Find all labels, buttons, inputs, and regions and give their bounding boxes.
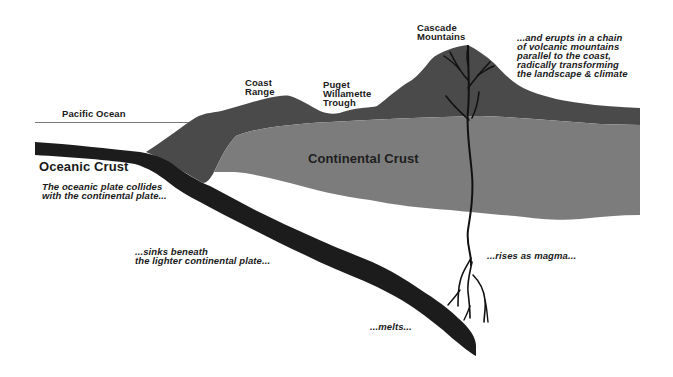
label-continental-crust: Continental Crust <box>308 152 419 165</box>
annotation-collides: The oceanic plate collides with the cont… <box>42 182 167 200</box>
label-oceanic-crust: Oceanic Crust <box>39 160 128 173</box>
label-pacific-ocean: Pacific Ocean <box>62 109 126 118</box>
annotation-sinks: ...sinks beneath the lighter continental… <box>135 247 270 265</box>
label-puget-trough: Puget Willamette Trough <box>323 80 371 107</box>
subduction-diagram: Pacific Ocean Coast Range Puget Willamet… <box>0 0 673 377</box>
annotation-erupts: ...and erupts in a chain of volcanic mou… <box>517 33 628 78</box>
annotation-melts: ...melts... <box>370 322 412 331</box>
label-coast-range: Coast Range <box>245 78 275 96</box>
annotation-rises: ...rises as magma... <box>487 251 576 260</box>
continental-crust-shape <box>214 116 640 220</box>
label-cascade-mountains: Cascade Mountains <box>417 23 465 41</box>
